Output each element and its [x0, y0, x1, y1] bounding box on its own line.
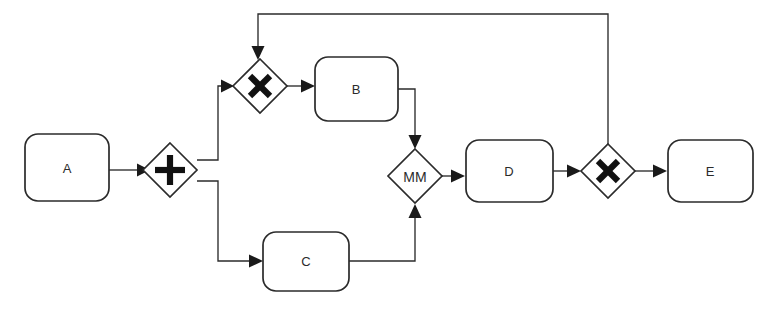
task-a[interactable]: A [25, 134, 109, 201]
gateway-mm-label: MM [403, 169, 426, 185]
bpmn-diagram-canvas: A B C D E [0, 0, 772, 310]
flow-gateway-parallel-to-gateway-xor-top [197, 80, 234, 161]
task-d-label: D [504, 164, 513, 179]
gateway-mm-merge[interactable]: MM [388, 149, 442, 203]
gateway-exclusive-split-right[interactable] [581, 144, 635, 198]
task-d[interactable]: D [466, 140, 553, 202]
bpmn-diagram: A B C D E [0, 0, 772, 310]
task-b[interactable]: B [315, 57, 398, 121]
gateway-parallel-split[interactable] [143, 143, 197, 197]
flow-gateway-xor-right-to-e [635, 165, 667, 178]
task-b-label: B [352, 82, 361, 97]
task-c-label: C [301, 254, 310, 269]
flow-loopback-gateway-xor-right-to-gateway-xor-top [252, 14, 609, 144]
task-e[interactable]: E [668, 140, 753, 202]
task-a-label: A [63, 161, 72, 176]
flow-gateway-parallel-to-c [197, 181, 263, 268]
flow-d-to-gateway-xor-right [553, 165, 581, 178]
task-e-label: E [706, 164, 715, 179]
flow-b-to-gateway-mm [398, 89, 422, 149]
gateway-exclusive-merge-top[interactable] [233, 59, 287, 113]
flow-gateway-xor-top-to-b [287, 80, 315, 93]
task-c[interactable]: C [263, 232, 349, 291]
flow-gateway-mm-to-d [442, 170, 465, 183]
flow-c-to-gateway-mm [349, 204, 422, 261]
